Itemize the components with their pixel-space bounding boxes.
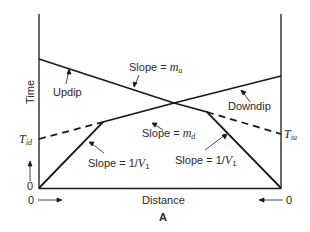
panel-label: A: [159, 212, 167, 223]
slope-mu-arrowhead-icon: [133, 82, 137, 87]
slope-v1-right-sub: 1: [232, 159, 236, 168]
time-origin-label: 0: [27, 181, 33, 192]
updip-label: Updip: [53, 87, 82, 98]
tiu-var: T: [284, 127, 291, 141]
distance-origin-right-label: 0: [286, 195, 292, 206]
slope-v1-left-arrowhead-icon: [89, 142, 94, 146]
slope-mu-label: Slope = mu: [129, 61, 182, 75]
distance-right-arrowhead-icon: [57, 198, 62, 202]
time-up-arrowhead-icon: [28, 161, 32, 166]
distance-origin-left-label: 0: [28, 195, 34, 206]
slope-mu-sub: u: [178, 66, 182, 75]
slope-md-label: Slope = md: [142, 127, 195, 141]
tid-var: T: [19, 132, 26, 146]
slope-v1-left-sub: 1: [145, 162, 149, 171]
tiu-label: Tiu: [284, 128, 297, 142]
dashed-extrapolation-left: [39, 122, 103, 139]
slope-mu-prefix: Slope =: [129, 61, 167, 73]
tiu-sub: iu: [291, 133, 297, 142]
tid-sub: id: [26, 138, 32, 147]
x-axis-label: Distance: [142, 195, 185, 206]
downdip-label: Downdip: [228, 101, 271, 112]
distance-left-arrowhead-icon: [259, 198, 264, 202]
slope-v1-left-label: Slope = 1/V1: [88, 157, 150, 171]
slope-v1-left-prefix: Slope = 1/: [88, 157, 138, 169]
slope-v1-right-prefix: Slope = 1/: [175, 154, 225, 166]
slope-v1-right-arrowhead-icon: [222, 134, 227, 139]
slope-v1-right-leader: [205, 135, 225, 150]
y-axis-label: Time: [25, 80, 36, 104]
downdip-arrowhead-icon: [241, 90, 246, 95]
slope-md-sub: d: [191, 132, 195, 141]
slope-v1-right-label: Slope = 1/V1: [175, 154, 237, 168]
slope-md-prefix: Slope =: [142, 127, 180, 139]
tid-label: Tid: [19, 133, 32, 147]
